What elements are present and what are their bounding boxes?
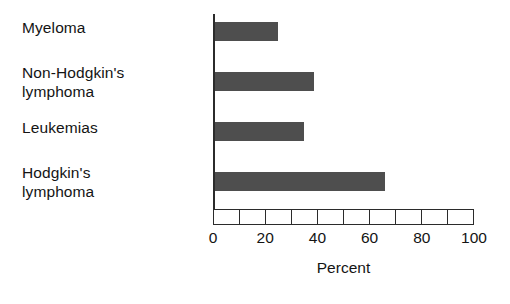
x-axis-box [213, 209, 474, 225]
bar-hodgkins-lymphoma [215, 172, 385, 191]
x-tick-label: 0 [209, 228, 218, 248]
x-axis-tick-labels: 0 20 40 60 80 100 [213, 228, 474, 250]
x-tick-label: 100 [461, 228, 487, 248]
category-label-myeloma: Myeloma [22, 18, 202, 37]
x-axis-cell [448, 210, 473, 224]
x-axis-cell [370, 210, 396, 224]
x-axis-title: Percent [213, 258, 474, 278]
category-label-column: Myeloma Non-Hodgkin's lymphoma Leukemias… [0, 0, 205, 210]
x-axis-cell [240, 210, 266, 224]
category-label-leukemias: Leukemias [22, 118, 202, 137]
x-axis-cell [344, 210, 370, 224]
x-axis-cell [266, 210, 292, 224]
x-axis-cell [396, 210, 422, 224]
x-axis-cell [292, 210, 318, 224]
x-tick-label: 80 [413, 228, 430, 248]
plot-area [213, 14, 474, 210]
bar-chart: Myeloma Non-Hodgkin's lymphoma Leukemias… [0, 0, 510, 304]
bar-myeloma [215, 22, 278, 41]
x-axis-cell [214, 210, 240, 224]
x-axis-cell [318, 210, 344, 224]
category-label-non-hodgkins-lymphoma: Non-Hodgkin's lymphoma [22, 63, 202, 101]
category-label-hodgkins-lymphoma: Hodgkin's lymphoma [22, 163, 202, 201]
x-tick-label: 40 [309, 228, 326, 248]
x-tick-label: 20 [257, 228, 274, 248]
bar-leukemias [215, 122, 304, 141]
bar-non-hodgkins-lymphoma [215, 72, 314, 91]
x-tick-label: 60 [361, 228, 378, 248]
x-axis-cell [422, 210, 448, 224]
